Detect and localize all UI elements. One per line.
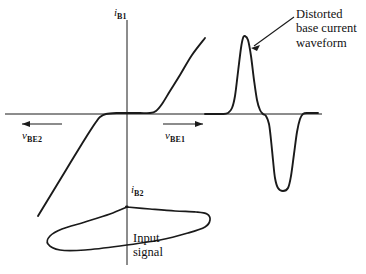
- input-signal-curve: [47, 206, 210, 250]
- figure-transfer-characteristic: iB1 iB2 vBE2 vBE1 Distorted base current…: [0, 0, 366, 274]
- axis-label-ib2: iB2: [131, 183, 144, 198]
- annotation-line-2: base current: [296, 21, 357, 35]
- callout-arrow-icon: [251, 17, 294, 51]
- axis-label-vbe2: vBE2: [22, 129, 42, 144]
- right-direction-arrow: [163, 121, 203, 127]
- annotation-line-3: waveform: [296, 36, 357, 50]
- distorted-base-current-waveform-curve: [205, 36, 318, 191]
- annotation-input-signal: Input signal: [133, 231, 163, 260]
- axis-label-ib1: iB1: [114, 6, 127, 21]
- transfer-characteristic-curve: [38, 38, 205, 216]
- annotation-input-line-2: signal: [133, 245, 163, 259]
- annotation-line-1: Distorted: [296, 7, 357, 21]
- left-direction-arrow: [22, 121, 62, 127]
- annotation-distorted-waveform: Distorted base current waveform: [296, 7, 357, 50]
- axis-label-vbe1: vBE1: [165, 129, 185, 144]
- annotation-input-line-1: Input: [133, 231, 163, 245]
